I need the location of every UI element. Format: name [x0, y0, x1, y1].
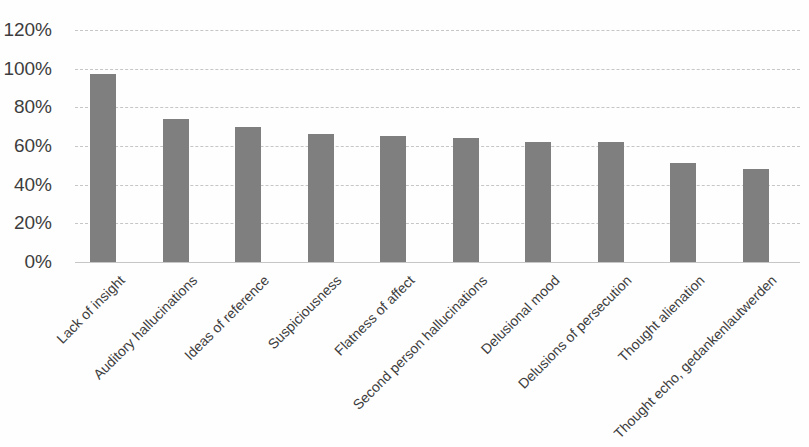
x-axis: Lack of insightAuditory hallucinationsId…	[0, 0, 809, 447]
x-tick-label: Lack of insight	[53, 272, 128, 347]
x-tick-label: Suspiciousness	[265, 272, 345, 352]
symptom-frequency-bar-chart: 0%20%40%60%80%100%120% Lack of insightAu…	[0, 0, 809, 447]
x-tick-label: Second person hallucinations	[349, 272, 490, 413]
x-tick-label: Thought echo, gedankenlautwerden	[611, 272, 780, 441]
